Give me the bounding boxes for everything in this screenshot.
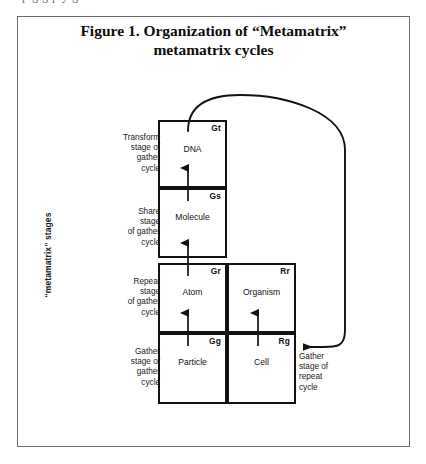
stage-caption-gather-repeat-cycle: Gatherstage ofrepeatcycle	[299, 352, 361, 393]
cell-gg-particle: Gg Particle	[158, 333, 227, 404]
cell-name-organism: Organism	[229, 287, 294, 297]
cell-name-cell: Cell	[229, 357, 294, 367]
axis-label-metamatrix-stages: “metamatrix” stages	[43, 180, 53, 330]
cell-gr-atom: Gr Atom	[158, 263, 227, 333]
cell-name-dna: DNA	[160, 144, 225, 154]
cell-code-gs: Gs	[209, 191, 221, 201]
cell-code-gr: Gr	[211, 266, 221, 276]
cell-code-rr: Rr	[280, 266, 290, 276]
cell-rg-cell: Rg Cell	[227, 333, 296, 404]
cell-gt-dna: Gt DNA	[158, 120, 227, 188]
stage-caption-gather: Gatherstage ofgathercycle	[98, 347, 160, 388]
figure-title: Figure 1. Organization of “Metamatrix” m…	[17, 21, 410, 59]
cell-rr-organism: Rr Organism	[227, 263, 296, 333]
cell-code-gt: Gt	[211, 123, 221, 133]
figure-title-line-2: metamatrix cycles	[17, 40, 410, 59]
cell-name-particle: Particle	[160, 357, 225, 367]
clipped-header-text: p g g p y g	[0, 0, 426, 10]
cell-name-molecule: Molecule	[160, 212, 225, 222]
stage-caption-transform: Transformstage ofgathercycle	[98, 133, 160, 174]
clipped-header-line: p g g p y g	[22, 0, 79, 4]
cell-name-atom: Atom	[160, 287, 225, 297]
figure-title-line-1: Figure 1. Organization of “Metamatrix”	[17, 21, 410, 40]
cell-code-gg: Gg	[209, 336, 221, 346]
stage-caption-repeat: Repeatstageof gathercycle	[98, 277, 160, 318]
cell-gs-molecule: Gs Molecule	[158, 188, 227, 258]
cell-code-rg: Rg	[278, 336, 290, 346]
stage-caption-share: Sharestageof gathercycle	[98, 207, 160, 248]
